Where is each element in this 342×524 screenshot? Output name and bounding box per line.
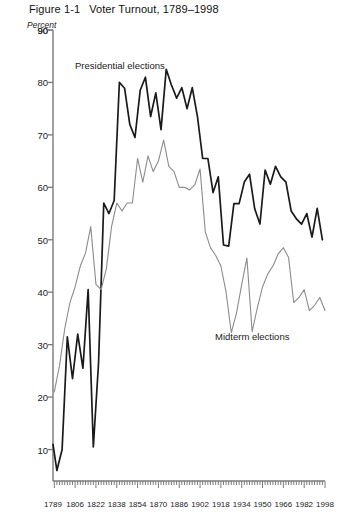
- x-axis-tick-label: 1998: [305, 500, 342, 509]
- series-group: [53, 69, 325, 470]
- y-axis-tick-label: 90: [26, 25, 48, 36]
- y-axis-tick-label: 60: [26, 182, 48, 193]
- y-axis-tick-label: 40: [26, 287, 48, 298]
- figure-title: Voter Turnout, 1789–1998: [89, 3, 219, 15]
- y-axis-tick-label: 30: [26, 339, 48, 350]
- y-axis-tick-label: 50: [26, 234, 48, 245]
- figure-root: Figure 1-1Voter Turnout, 1789–1998 Perce…: [0, 0, 342, 524]
- y-axis-tick-label: 10: [26, 444, 48, 455]
- axes-group: [48, 30, 325, 488]
- y-axis-tick-label: 70: [26, 129, 48, 140]
- series-line-presidential: [53, 69, 322, 470]
- chart-svg: [53, 30, 325, 481]
- series-label-midterm: Midterm elections: [215, 331, 289, 342]
- figure-caption: Figure 1-1Voter Turnout, 1789–1998: [29, 3, 219, 15]
- figure-number: Figure 1-1: [29, 3, 80, 15]
- plot-area: [53, 30, 325, 481]
- y-axis-tick-label: 20: [26, 392, 48, 403]
- series-line-midterm: [54, 140, 325, 392]
- y-axis-tick-label: 80: [26, 77, 48, 88]
- series-label-presidential: Presidential elections: [75, 60, 165, 71]
